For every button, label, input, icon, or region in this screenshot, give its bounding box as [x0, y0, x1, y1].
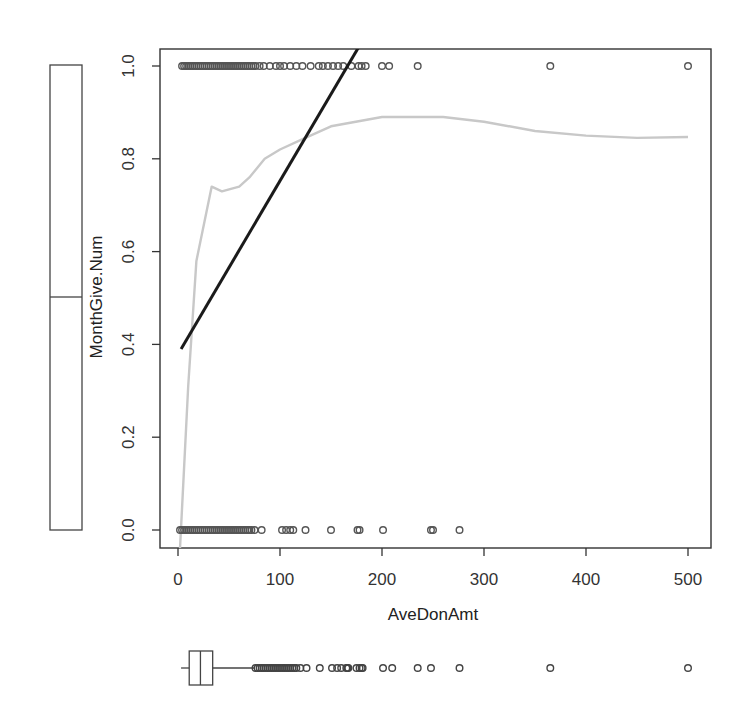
x-tick-label: 500 — [674, 570, 702, 589]
y-tick-label: 0.8 — [119, 147, 138, 171]
y-tick-label: 0.4 — [119, 333, 138, 357]
x-tick-label: 0 — [173, 570, 182, 589]
x-tick-label: 400 — [572, 570, 600, 589]
y-tick-label: 0.0 — [119, 518, 138, 542]
y-tick-label: 1.0 — [119, 54, 138, 78]
y-tick-label: 0.2 — [119, 425, 138, 449]
y-axis-title: MonthGive.Num — [87, 236, 106, 359]
y-tick-label: 0.6 — [119, 240, 138, 264]
x-tick-label: 100 — [266, 570, 294, 589]
chart: 0.00.20.40.60.81.0 0100200300400500 Mont… — [0, 0, 743, 716]
data-points — [177, 63, 692, 534]
plot-frame — [160, 49, 711, 548]
loess-smooth-line — [180, 117, 688, 549]
x-tick-label: 200 — [368, 570, 396, 589]
linear-fit-line — [181, 47, 358, 349]
x-axis: 0100200300400500 — [173, 548, 702, 589]
x-axis-title: AveDonAmt — [388, 605, 479, 624]
y-axis: 0.00.20.40.60.81.0 — [119, 54, 160, 542]
x-marginal-boxplot — [181, 651, 691, 685]
x-tick-label: 300 — [470, 570, 498, 589]
y-marginal-boxplot — [50, 65, 82, 530]
